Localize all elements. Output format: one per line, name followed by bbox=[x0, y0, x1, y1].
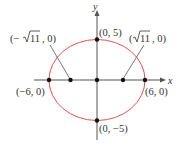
left-focus-suffix: , 0) bbox=[42, 33, 57, 45]
label-left-focus: (− 11 , 0) bbox=[10, 31, 57, 45]
label-bottom-covertex: (0, −5) bbox=[99, 123, 128, 135]
coordinate-axes: x y bbox=[34, 1, 173, 140]
right-focus-radicand: 11 bbox=[140, 33, 150, 44]
right-focus-leader bbox=[123, 45, 144, 79]
x-axis-arrow-icon bbox=[160, 78, 166, 83]
right-focus-prefix: ( bbox=[129, 33, 133, 45]
label-left-vertex: (−6, 0) bbox=[16, 86, 45, 98]
point-left-vertex bbox=[47, 78, 51, 82]
left-focus-prefix: (− bbox=[10, 33, 19, 45]
left-focus-radicand: 11 bbox=[30, 33, 40, 44]
label-right-focus: ( 11 , 0) bbox=[129, 31, 167, 45]
ellipse-diagram: x y (0, 5) (0, −5) (−6, 0) (6, 0) (− 11 … bbox=[0, 0, 184, 145]
point-center bbox=[95, 78, 99, 82]
y-axis-label: y bbox=[92, 1, 98, 12]
point-left-focus bbox=[68, 78, 72, 82]
point-right-focus bbox=[121, 78, 125, 82]
right-focus-suffix: , 0) bbox=[152, 33, 167, 45]
point-right-vertex bbox=[143, 78, 147, 82]
label-top-covertex: (0, 5) bbox=[99, 27, 122, 39]
x-axis-label: x bbox=[167, 75, 173, 86]
label-right-vertex: (6, 0) bbox=[145, 86, 168, 98]
left-focus-leader bbox=[50, 45, 70, 79]
